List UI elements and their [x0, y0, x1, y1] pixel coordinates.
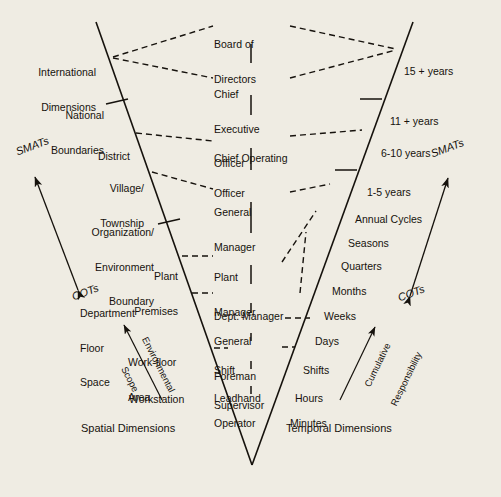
spatial-label-line: Village/ [30, 183, 144, 195]
org-label-line: General [214, 207, 300, 219]
diagram-canvas: International Dimensions National Bounda… [0, 0, 501, 497]
connector-international-to-board [113, 26, 213, 57]
spatial-label-line: Organization/ [28, 227, 154, 239]
connector-district-to-coo [136, 133, 213, 141]
org-label-line: Chief Operating [214, 153, 306, 165]
environmental-scope-line: Environmental [136, 329, 180, 401]
spatial-label-line: International [0, 67, 96, 79]
connector-ceo-to-15-years [290, 50, 396, 78]
org-label-line: Board of [214, 39, 300, 51]
connector-dept-manager-to-quarters [300, 232, 306, 293]
spatial-tick-org-environment-boundary [158, 219, 180, 224]
connector-international-to-ceo [113, 58, 213, 78]
connector-board-to-15-years [290, 26, 396, 49]
org-label-line: Plant [214, 272, 300, 284]
connector-village-to-gm [152, 172, 213, 189]
spatial-label-line: Plant [68, 271, 178, 283]
environmental-scope-line: Scope [108, 343, 152, 415]
spatial-label-line: National [8, 110, 104, 122]
caption-temporal-dimensions: Temporal Dimensions [286, 423, 456, 435]
caption-spatial-dimensions: Spatial Dimensions [81, 423, 241, 435]
spatial-label-line: Department [80, 308, 190, 320]
org-label-line: Chief [214, 89, 300, 101]
temporal-label-line: 15 + years [404, 66, 494, 78]
temporal-label-15-years: 15 + years [404, 43, 494, 101]
